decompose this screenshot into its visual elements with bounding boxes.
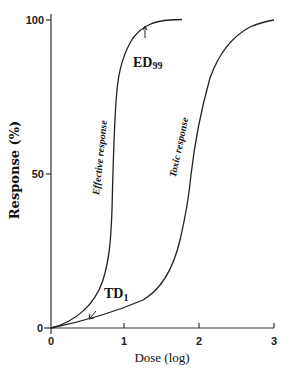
x-tick-label-0: 0 <box>48 335 54 347</box>
toxic-response-curve <box>51 20 274 328</box>
x-tick-label-2: 2 <box>196 335 202 347</box>
x-axis-title: Dose (log) <box>134 350 189 365</box>
chart-svg: 100 50 0 Response (%) 0 1 2 3 Dose (log)… <box>0 0 301 375</box>
ed99-label: ED99 <box>133 55 162 71</box>
td1-label: TD1 <box>104 286 128 303</box>
y-axis-title: Response (%) <box>7 121 22 219</box>
dose-response-chart: 100 50 0 Response (%) 0 1 2 3 Dose (log)… <box>0 0 301 375</box>
x-tick-label-1: 1 <box>121 335 127 347</box>
y-tick-label-0: 0 <box>37 322 43 334</box>
y-tick-label-50: 50 <box>32 168 44 180</box>
td1-annotation: TD1 <box>89 286 128 319</box>
x-tick-label-3: 3 <box>271 335 277 347</box>
effective-response-label: Effective response <box>90 119 109 196</box>
y-axis: 100 50 0 Response (%) <box>7 14 51 334</box>
x-axis: 0 1 2 3 Dose (log) <box>48 323 277 365</box>
ed99-arrow-icon <box>143 26 147 38</box>
toxic-response-label: Toxic response <box>167 116 191 179</box>
td1-arrow-icon <box>89 311 96 319</box>
y-tick-label-100: 100 <box>26 14 44 26</box>
